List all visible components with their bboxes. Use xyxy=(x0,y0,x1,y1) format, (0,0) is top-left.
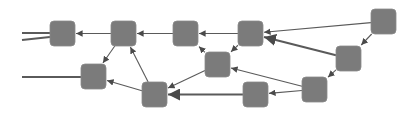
graph-node-K xyxy=(205,52,230,77)
graph-node-E xyxy=(142,82,167,107)
edge-F-to-K xyxy=(231,45,238,52)
graph-node-G xyxy=(371,9,396,34)
input-stub-line xyxy=(22,37,50,40)
edge-K-to-E xyxy=(168,70,205,88)
graph-node-C xyxy=(173,21,198,46)
edge-G-to-F xyxy=(264,23,371,33)
graph-node-D xyxy=(81,64,106,89)
edge-E-to-D xyxy=(107,80,142,90)
graph-node-F xyxy=(238,21,263,46)
directed-graph-diagram xyxy=(0,0,420,115)
edge-K-to-C xyxy=(199,47,205,53)
graph-canvas xyxy=(0,0,420,115)
graph-node-B xyxy=(111,21,136,46)
edge-G-to-H xyxy=(361,34,371,45)
edge-H-to-I xyxy=(328,70,336,77)
graph-node-J xyxy=(243,82,268,107)
edge-I-to-J xyxy=(269,91,302,94)
graph-node-I xyxy=(302,77,327,102)
edge-E-to-B xyxy=(130,47,148,82)
graph-node-A xyxy=(50,21,75,46)
graph-node-H xyxy=(336,46,361,71)
nodes xyxy=(50,9,396,107)
edge-H-to-F xyxy=(264,37,336,55)
edge-B-to-D xyxy=(103,46,115,63)
